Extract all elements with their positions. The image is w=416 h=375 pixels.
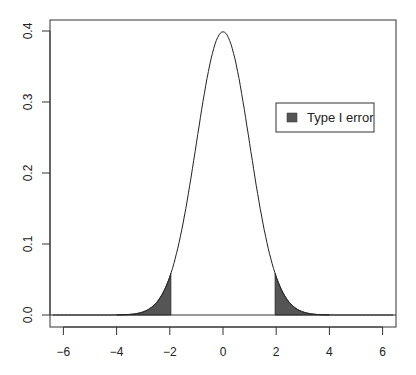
type-i-error-regions <box>117 274 330 316</box>
x-tick-label: 6 <box>379 345 386 359</box>
plot-frame <box>50 20 396 327</box>
y-axis: 0.00.10.20.30.4 <box>21 22 50 323</box>
x-tick-label: 4 <box>326 345 333 359</box>
shaded-tail-left <box>117 274 171 316</box>
y-tick-label: 0.3 <box>21 93 35 110</box>
legend-label: Type I error <box>307 110 374 125</box>
legend-swatch <box>287 113 297 122</box>
chart: −6−4−20246 0.00.10.20.30.4 Type I error <box>0 0 416 375</box>
x-tick-label: 2 <box>273 345 280 359</box>
x-tick-label: −2 <box>163 345 177 359</box>
y-tick-label: 0.4 <box>21 22 35 39</box>
x-tick-label: −4 <box>110 345 124 359</box>
x-tick-label: −6 <box>57 345 71 359</box>
density-curve <box>53 32 393 315</box>
y-tick-label: 0.1 <box>21 235 35 252</box>
legend: Type I error <box>276 103 374 132</box>
x-tick-label: 0 <box>220 345 227 359</box>
y-tick-label: 0.0 <box>21 306 35 323</box>
x-axis: −6−4−20246 <box>57 327 387 359</box>
y-tick-label: 0.2 <box>21 164 35 181</box>
